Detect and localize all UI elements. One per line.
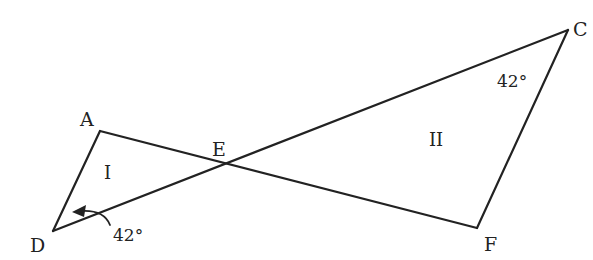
segment-dc xyxy=(53,30,568,231)
point-label-d: D xyxy=(30,236,45,255)
point-label-e: E xyxy=(212,140,226,159)
region-label-i: I xyxy=(104,164,111,182)
region-label-ii: II xyxy=(429,131,443,149)
arrowhead-icon xyxy=(72,205,86,217)
diagram-lines xyxy=(0,0,593,260)
point-label-a: A xyxy=(80,110,94,129)
angle-label-c: 42° xyxy=(497,73,527,90)
angle-label-d: 42° xyxy=(113,227,143,244)
point-label-c: C xyxy=(573,20,588,39)
segment-af xyxy=(100,131,477,228)
geometry-diagram: A D E C F 42° 42° I II xyxy=(0,0,593,260)
point-label-f: F xyxy=(484,235,497,254)
